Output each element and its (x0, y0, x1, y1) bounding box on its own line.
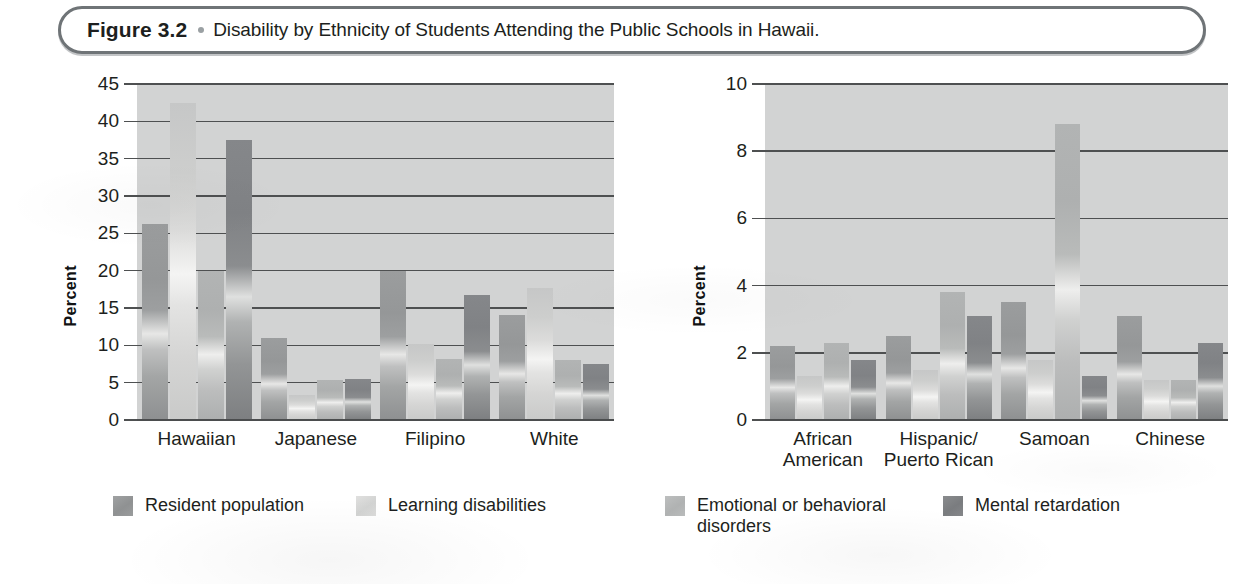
legend-swatch-icon (113, 496, 133, 516)
gridline (137, 233, 614, 235)
y-axis-tick-label: 0 (703, 409, 747, 431)
y-axis-tick-label: 2 (703, 342, 747, 364)
y-axis-tick (752, 419, 765, 421)
y-axis-tick (124, 233, 137, 235)
y-axis-tick (124, 158, 137, 160)
bar (1028, 360, 1053, 420)
bar (380, 271, 406, 420)
bar (408, 344, 434, 420)
y-axis-tick (752, 352, 765, 354)
bar (1001, 302, 1026, 420)
gridline (137, 83, 614, 85)
bar (317, 380, 343, 420)
y-axis-tick (124, 419, 137, 421)
bar (824, 343, 849, 420)
gridline (137, 158, 614, 160)
y-axis-tick-label: 0 (75, 409, 119, 431)
x-axis-line (137, 419, 614, 421)
y-axis-tick (752, 150, 765, 152)
bar (499, 315, 525, 420)
left-plot-area (137, 84, 614, 420)
bar (1055, 124, 1080, 420)
bar (583, 364, 609, 420)
legend-label: Resident population (145, 495, 304, 516)
bar (1144, 380, 1169, 420)
bar (851, 360, 876, 420)
bar (770, 346, 795, 420)
gridline (137, 121, 614, 123)
bar (170, 103, 196, 420)
y-axis-tick-label: 8 (703, 140, 747, 162)
legend-label: Learning disabilities (388, 495, 546, 516)
legend-item-0: Resident population (113, 495, 304, 516)
bar (226, 140, 252, 420)
figure-caption: Disability by Ethnicity of Students Atte… (213, 19, 819, 41)
y-axis-tick (124, 307, 137, 309)
legend-label: Mental retardation (975, 495, 1120, 516)
y-axis-tick-label: 10 (75, 334, 119, 356)
gridline (765, 218, 1228, 220)
y-axis-tick-label: 6 (703, 207, 747, 229)
y-axis-tick-label: 25 (75, 222, 119, 244)
chart-legend: Resident population Learning disabilitie… (0, 495, 1259, 555)
y-axis-tick (752, 285, 765, 287)
legend-label: Emotional or behavioral disorders (697, 495, 886, 537)
y-axis-tick-label: 20 (75, 260, 119, 282)
right-plot-area (765, 84, 1228, 420)
x-axis-category-label: White (477, 429, 632, 450)
y-axis-tick-label: 15 (75, 297, 119, 319)
legend-item-1: Learning disabilities (356, 495, 546, 516)
bar (142, 224, 168, 420)
y-axis-tick (124, 345, 137, 347)
gridline (765, 285, 1228, 287)
y-axis-tick-label: 4 (703, 275, 747, 297)
bar (1198, 343, 1223, 420)
y-axis-tick-label: 10 (703, 73, 747, 95)
y-axis-tick (124, 382, 137, 384)
y-axis-tick (124, 83, 137, 85)
y-axis-tick-label: 40 (75, 110, 119, 132)
gridline (765, 150, 1228, 152)
bar (198, 271, 224, 420)
bar (886, 336, 911, 420)
chart-right-panel: Percent 0246810African AmericanHispanic/… (630, 60, 1259, 470)
bar (261, 338, 287, 420)
gridline (137, 195, 614, 197)
x-axis-line (765, 419, 1228, 421)
y-axis-tick-label: 45 (75, 73, 119, 95)
y-axis-tick (124, 270, 137, 272)
bar (436, 359, 462, 420)
bar (940, 292, 965, 420)
y-axis-tick (124, 195, 137, 197)
gridline (765, 83, 1228, 85)
bar (1082, 376, 1107, 420)
bar (1117, 316, 1142, 420)
bar (967, 316, 992, 420)
dot-separator-icon (198, 27, 204, 33)
bar (345, 379, 371, 420)
bar (913, 370, 938, 420)
y-axis-tick (124, 121, 137, 123)
bar (527, 288, 553, 420)
legend-item-2: Emotional or behavioral disorders (665, 495, 886, 537)
y-axis-tick-label: 30 (75, 185, 119, 207)
bar (1171, 380, 1196, 420)
legend-swatch-icon (356, 496, 376, 516)
legend-swatch-icon (665, 496, 685, 516)
legend-swatch-icon (943, 496, 963, 516)
figure-number: Figure 3.2 (87, 18, 187, 42)
y-axis-tick-label: 35 (75, 148, 119, 170)
bar (555, 360, 581, 420)
y-axis-tick (752, 218, 765, 220)
figure-title-banner: Figure 3.2 Disability by Ethnicity of St… (58, 6, 1206, 54)
x-axis-category-label: Chinese (1094, 429, 1246, 450)
bar (464, 295, 490, 420)
legend-item-3: Mental retardation (943, 495, 1120, 516)
bar (289, 395, 315, 420)
y-axis-tick-label: 5 (75, 372, 119, 394)
chart-left-panel: Percent 051015202530354045HawaiianJapane… (0, 60, 630, 470)
bar (797, 376, 822, 420)
y-axis-tick (752, 83, 765, 85)
